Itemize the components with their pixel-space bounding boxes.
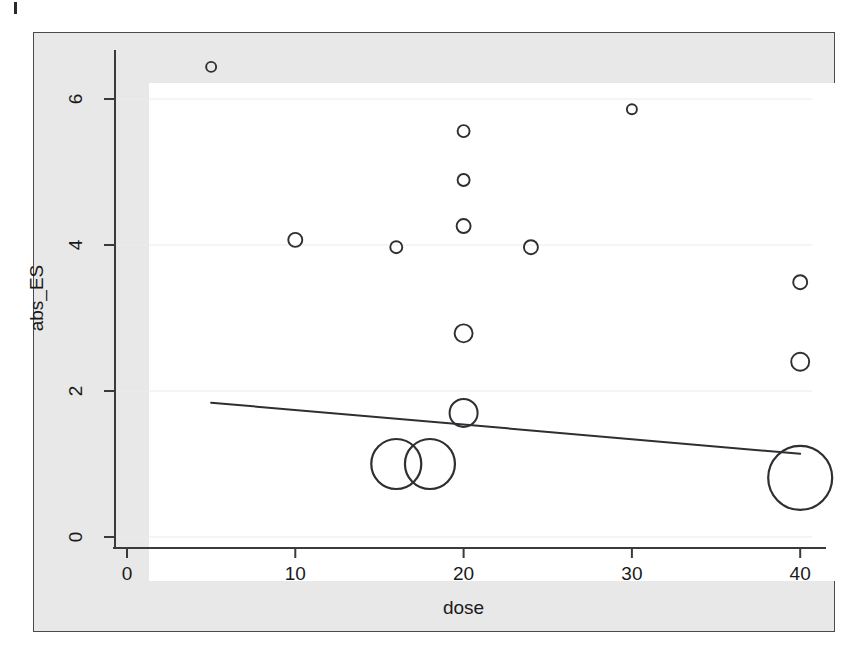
x-tick-label-10: 10 bbox=[265, 563, 325, 585]
y-tick-label-6: 6 bbox=[65, 83, 87, 115]
y-axis-label: abs_ES bbox=[26, 253, 48, 343]
x-tick-label-30: 30 bbox=[602, 563, 662, 585]
y-tick-label-4: 4 bbox=[65, 229, 87, 261]
plot-panel bbox=[149, 83, 846, 581]
y-tick-label-2: 2 bbox=[65, 375, 87, 407]
x-tick-label-20: 20 bbox=[434, 563, 494, 585]
figure-frame bbox=[33, 32, 835, 632]
x-axis-label: dose bbox=[115, 597, 812, 619]
page-canvas: 010203040 0246 dose abs_ES bbox=[0, 0, 862, 660]
x-tick-label-40: 40 bbox=[770, 563, 830, 585]
page-edge-artifact bbox=[14, 2, 17, 14]
y-tick-label-0: 0 bbox=[65, 521, 87, 553]
x-tick-label-0: 0 bbox=[97, 563, 157, 585]
